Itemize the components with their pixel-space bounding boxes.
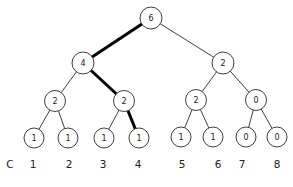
column-label-6: 6 (215, 158, 222, 170)
tree-diagram-svg: 642222011111100C12345678 (0, 0, 293, 187)
tree-node-value: 0 (243, 133, 248, 142)
tree-node-n2a: 2 (45, 91, 66, 112)
tree-node-value: 1 (136, 134, 141, 143)
tree-node-value: 1 (178, 133, 183, 142)
column-label-8: 8 (274, 158, 281, 170)
tree-node-value: 2 (193, 96, 198, 105)
tree-node-value: 0 (253, 96, 258, 105)
tree-node-value: 1 (65, 134, 70, 143)
tree-node-l2: 1 (58, 128, 78, 148)
tree-node-l6: 1 (203, 127, 223, 147)
column-label-3: 3 (100, 158, 107, 170)
tree-diagram: 642222011111100C12345678 (0, 0, 293, 187)
column-label-2: 2 (66, 158, 73, 170)
tree-node-n2b: 2 (114, 91, 135, 112)
tree-node-value: 4 (80, 59, 85, 68)
column-label-C: C (6, 158, 13, 170)
tree-node-value: 2 (121, 97, 126, 106)
tree-node-n2c: 2 (186, 90, 207, 111)
column-label-4: 4 (135, 158, 142, 170)
tree-node-value: 1 (31, 134, 36, 143)
tree-node-l1: 1 (24, 128, 44, 148)
tree-node-n2R: 2 (212, 52, 234, 74)
tree-node-value: 2 (220, 59, 225, 68)
column-label-1: 1 (30, 158, 37, 170)
tree-node-value: 0 (274, 133, 279, 142)
tree-node-n6: 6 (140, 7, 162, 29)
tree-node-value: 1 (210, 133, 215, 142)
tree-node-l8: 0 (267, 127, 287, 147)
tree-node-n0: 0 (246, 90, 267, 111)
tree-node-l3: 1 (94, 128, 114, 148)
tree-node-n4: 4 (72, 52, 94, 74)
tree-node-value: 1 (101, 134, 106, 143)
tree-node-l5: 1 (171, 127, 191, 147)
tree-edge-highlighted (83, 18, 151, 63)
tree-node-value: 2 (52, 97, 57, 106)
tree-node-l7: 0 (236, 127, 256, 147)
column-label-5: 5 (179, 158, 186, 170)
tree-edge (151, 18, 223, 63)
tree-node-value: 6 (148, 14, 153, 23)
column-label-7: 7 (239, 158, 246, 170)
tree-node-l4: 1 (129, 128, 149, 148)
